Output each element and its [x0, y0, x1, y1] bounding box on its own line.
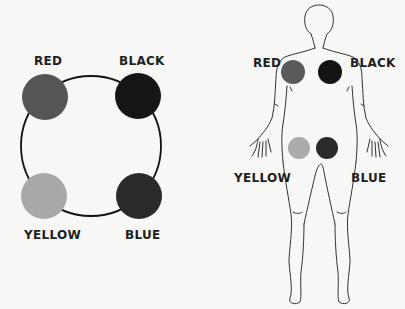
- label-red: RED: [34, 54, 62, 68]
- body-blue-dot: [316, 137, 338, 159]
- black-dot: [115, 73, 161, 119]
- label-blue: BLUE: [125, 228, 161, 242]
- blue-dot: [116, 173, 162, 219]
- body-label-red: RED: [253, 56, 281, 70]
- body-black-dot: [318, 60, 342, 84]
- diagram-canvas: [0, 0, 405, 309]
- label-black: BLACK: [119, 54, 165, 68]
- body-yellow-dot: [288, 137, 310, 159]
- body-label-blue: BLUE: [351, 171, 387, 185]
- label-yellow: YELLOW: [24, 228, 81, 242]
- body-label-black: BLACK: [350, 56, 396, 70]
- red-dot: [22, 74, 68, 120]
- yellow-dot: [21, 173, 67, 219]
- body-red-dot: [281, 60, 305, 84]
- body-label-yellow: YELLOW: [234, 171, 291, 185]
